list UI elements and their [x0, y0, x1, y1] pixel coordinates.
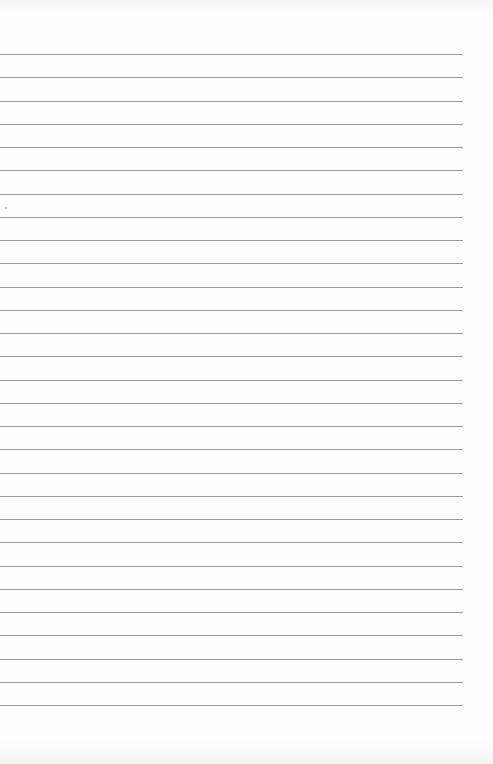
ruled-line — [0, 635, 463, 636]
ruled-line — [0, 682, 463, 683]
ruled-line — [0, 217, 463, 218]
ruled-line — [0, 333, 463, 334]
ruled-line — [0, 240, 463, 241]
ruled-line — [0, 380, 463, 381]
ruled-line — [0, 124, 463, 125]
ruled-line — [0, 426, 463, 427]
ruled-line — [0, 473, 463, 474]
ruled-line — [0, 705, 463, 706]
ruled-line — [0, 496, 463, 497]
ruled-line — [0, 287, 463, 288]
ruled-line — [0, 77, 463, 78]
ruled-line — [0, 263, 463, 264]
ruled-line — [0, 101, 463, 102]
lined-paper-page — [0, 0, 493, 764]
ruled-line — [0, 449, 463, 450]
ruled-line — [0, 542, 463, 543]
ruled-line — [0, 566, 463, 567]
ruled-line — [0, 147, 463, 148]
ruled-line — [0, 612, 463, 613]
ruled-line — [0, 589, 463, 590]
ruled-line — [0, 54, 463, 55]
ruled-line — [0, 356, 463, 357]
ruled-line — [0, 170, 463, 171]
ruled-line — [0, 519, 463, 520]
ruled-line — [0, 659, 463, 660]
ruled-line — [0, 194, 463, 195]
ruled-line — [0, 403, 463, 404]
ruled-line — [0, 310, 463, 311]
paper-speck — [5, 207, 7, 209]
